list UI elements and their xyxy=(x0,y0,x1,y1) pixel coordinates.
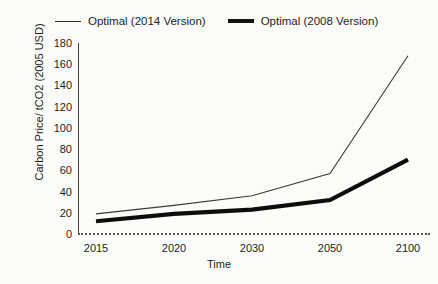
legend-entry-optimal-2014: Optimal (2014 Version) xyxy=(55,15,206,28)
legend-line-icon-thin xyxy=(55,21,81,22)
legend-line-icon-thick xyxy=(228,19,254,23)
series-line-optimal-2014 xyxy=(96,56,408,214)
y-tick-label: 80 xyxy=(60,143,72,155)
y-tick-label: 160 xyxy=(54,58,72,70)
plot-area: 180160140120100806040200 201520202030205… xyxy=(78,43,430,234)
series-plot xyxy=(78,43,430,234)
x-tick-label: 2100 xyxy=(396,242,420,254)
x-axis-title: Time xyxy=(0,258,438,270)
series-line-optimal-2008 xyxy=(96,160,408,222)
y-tick-label: 180 xyxy=(54,37,72,49)
legend-label-optimal-2008: Optimal (2008 Version) xyxy=(261,15,379,28)
chart-figure: Optimal (2014 Version) Optimal (2008 Ver… xyxy=(0,0,438,284)
y-tick-label: 140 xyxy=(54,79,72,91)
y-tick-label: 60 xyxy=(60,164,72,176)
y-tick-label: 100 xyxy=(54,122,72,134)
legend-entry-optimal-2008: Optimal (2008 Version) xyxy=(228,15,379,28)
x-tick-label: 2015 xyxy=(84,242,108,254)
x-tick-label: 2030 xyxy=(240,242,264,254)
y-axis-title: Carbon Price/ tCO2 (2005 USD) xyxy=(33,2,45,202)
y-tick-label: 0 xyxy=(66,228,72,240)
y-tick-label: 20 xyxy=(60,207,72,219)
y-tick-label: 40 xyxy=(60,186,72,198)
x-tick-label: 2020 xyxy=(162,242,186,254)
y-tick-label: 120 xyxy=(54,101,72,113)
legend-label-optimal-2014: Optimal (2014 Version) xyxy=(88,15,206,28)
x-tick-label: 2050 xyxy=(318,242,342,254)
chart-legend: Optimal (2014 Version) Optimal (2008 Ver… xyxy=(55,8,435,34)
